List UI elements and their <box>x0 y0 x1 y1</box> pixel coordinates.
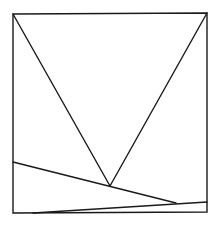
outer-square <box>13 13 207 213</box>
geometric-diagram <box>0 0 223 228</box>
lower-line <box>33 202 207 213</box>
sloped-line <box>13 162 176 203</box>
v-left-line <box>13 14 110 186</box>
v-right-line <box>110 13 207 186</box>
